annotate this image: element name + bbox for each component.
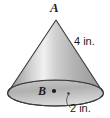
radius-endpoint-dot (67, 92, 70, 95)
base-center-dot (52, 89, 56, 93)
slant-height-label: 4 in. (74, 36, 95, 47)
apex-label: A (50, 1, 59, 14)
base-center-label: B (38, 85, 46, 97)
cone-drawing (0, 0, 110, 118)
radius-label: 2 in. (70, 103, 91, 114)
cone-figure: A B 4 in. 2 in. (0, 0, 110, 118)
